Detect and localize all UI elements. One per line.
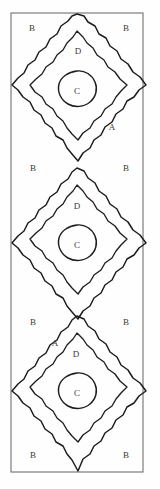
zone-label: D — [73, 350, 80, 359]
zone-label: B — [30, 318, 36, 327]
zone-label: B — [30, 451, 36, 460]
zone-label: B — [123, 318, 129, 327]
zone-label: D — [75, 47, 82, 56]
zone-label: B — [123, 24, 129, 33]
zone-label: B — [29, 24, 35, 33]
zone-label: C — [74, 389, 80, 398]
zone-label: B — [123, 164, 129, 173]
zone-label: C — [74, 87, 80, 96]
zone-label: A — [52, 339, 59, 348]
figure-canvas: B B D C A B B D C B B A D C B B — [0, 0, 160, 489]
zone-label: B — [123, 451, 129, 460]
zone-label: D — [74, 202, 81, 211]
zone-label: C — [74, 241, 80, 250]
zone-label: A — [109, 123, 116, 132]
zone-label: B — [30, 164, 36, 173]
